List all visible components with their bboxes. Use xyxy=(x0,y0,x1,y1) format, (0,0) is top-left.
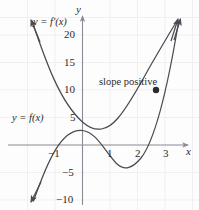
y-tick-minus5: −5 xyxy=(62,167,74,178)
x-tick-minus1: −1 xyxy=(48,148,60,159)
y-axis-label: y xyxy=(76,4,81,15)
x-tick-3: 3 xyxy=(163,148,169,159)
plot-canvas xyxy=(0,0,199,210)
y-tick-5: 5 xyxy=(70,112,76,123)
y-tick-minus10: −10 xyxy=(56,194,73,205)
figure-graph-derivative: y x 20 15 10 5 −5 −10 −1 1 2 3 y = f′(x)… xyxy=(0,0,199,210)
x-axis-label: x xyxy=(186,146,191,157)
curve-label-f-prime: y = f′(x) xyxy=(33,17,67,28)
annotation-slope-positive: slope positive xyxy=(99,77,157,88)
tangent-point-marker xyxy=(153,87,159,93)
y-tick-20: 20 xyxy=(64,29,75,40)
curve-label-f: y = f(x) xyxy=(12,113,44,124)
grid-lines xyxy=(0,0,199,210)
x-tick-1: 1 xyxy=(107,148,113,159)
x-tick-2: 2 xyxy=(135,148,141,159)
axis-lines xyxy=(8,16,188,205)
y-tick-10: 10 xyxy=(64,84,75,95)
y-tick-15: 15 xyxy=(64,57,75,68)
